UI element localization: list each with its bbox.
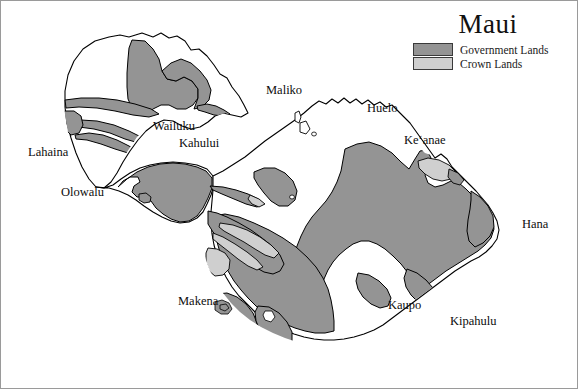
- crown-lands-swatch: [413, 57, 453, 70]
- legend-row-crown: Crown Lands: [413, 57, 563, 70]
- map-title: Maui: [413, 9, 563, 39]
- government-lands-label: Government Lands: [460, 44, 548, 56]
- place-label-olowalu: Olowalu: [61, 185, 104, 200]
- place-label-kahului: Kahului: [179, 136, 219, 151]
- place-label-keanae: Keʻanae: [404, 133, 446, 148]
- place-label-maliko: Maliko: [266, 83, 302, 98]
- place-label-hana: Hana: [522, 217, 548, 232]
- map-figure: Maui Government Lands Crown Lands Lahain…: [0, 0, 578, 389]
- place-label-kipahulu: Kipahulu: [450, 314, 497, 329]
- map-legend: Maui Government Lands Crown Lands: [413, 9, 563, 71]
- place-label-lahaina: Lahaina: [28, 145, 68, 160]
- government-lands-swatch: [413, 43, 453, 56]
- place-label-kaupo: Kaupo: [388, 298, 421, 313]
- east-maui-region: [206, 98, 499, 346]
- gov-land-lahaina-spur: [62, 111, 83, 135]
- crown-lands-label: Crown Lands: [460, 58, 522, 70]
- place-label-makena: Makena: [178, 294, 218, 309]
- legend-row-government: Government Lands: [413, 43, 563, 56]
- place-label-wailuku: Wailuku: [153, 119, 195, 134]
- place-label-huelo: Huelo: [367, 101, 398, 116]
